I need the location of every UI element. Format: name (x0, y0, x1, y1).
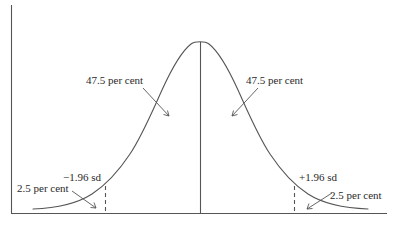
right-area-label: 47.5 per cent (246, 75, 303, 86)
right-area-arrow (232, 88, 258, 116)
upper-critical-value-label: +1.96 sd (299, 172, 337, 183)
right-tail-label: 2.5 per cent (330, 190, 382, 201)
left-area-arrow (143, 88, 169, 116)
lower-critical-value-label: −1.96 sd (63, 172, 101, 183)
normal-distribution-figure: 47.5 per cent 47.5 per cent −1.96 sd +1.… (0, 0, 409, 229)
left-area-label: 47.5 per cent (86, 75, 143, 86)
left-tail-label: 2.5 per cent (17, 183, 69, 194)
